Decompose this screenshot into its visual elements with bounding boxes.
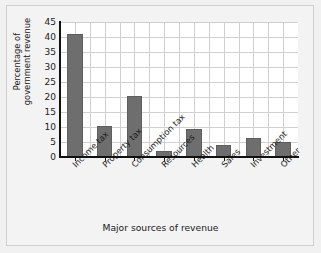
y-axis-tick-label: 5 (38, 138, 56, 147)
gridline-vertical (239, 22, 240, 157)
gridline-vertical (268, 22, 269, 157)
y-axis-line (59, 21, 61, 158)
gridline-vertical-minor (224, 22, 225, 157)
y-axis-tick-label: 40 (38, 33, 56, 42)
x-axis-title: Major sources of revenue (0, 222, 321, 233)
gridline-vertical (179, 22, 180, 157)
y-axis-tick-label: 45 (38, 18, 56, 27)
y-axis-tick-label: 20 (38, 93, 56, 102)
gridline-vertical (149, 22, 150, 157)
y-axis-title: Percentage of government revenue (13, 2, 32, 122)
y-axis-tick-label: 35 (38, 48, 56, 57)
gridline-vertical (209, 22, 210, 157)
y-axis-tick-label: 30 (38, 63, 56, 72)
chart-figure: Percentage of government revenue 0510152… (0, 0, 321, 253)
y-axis-tick-labels: 051015202530354045 (36, 0, 56, 253)
bar (67, 34, 82, 157)
gridline-vertical (120, 22, 121, 157)
y-axis-tick-label: 0 (38, 153, 56, 162)
y-axis-tick-label: 25 (38, 78, 56, 87)
y-axis-tick-label: 15 (38, 108, 56, 117)
gridline-vertical (90, 22, 91, 157)
y-axis-tick-label: 10 (38, 123, 56, 132)
